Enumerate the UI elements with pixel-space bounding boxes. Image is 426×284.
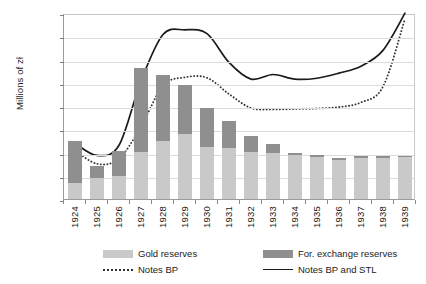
x-axis-tick-label: 1928 — [157, 206, 168, 228]
x-axis-tick-label: 1936 — [333, 206, 344, 228]
x-axis-tick-label: 1926 — [113, 206, 124, 228]
bar-segment-gold-reserves — [178, 134, 192, 199]
bar-segment-for-exchange-reserves — [68, 141, 82, 183]
x-axis-tick-label: 1927 — [135, 206, 146, 228]
x-axis-tick — [327, 200, 328, 204]
chart-legend: Gold reserves For. exchange reserves Not… — [63, 246, 415, 280]
bar-column — [112, 151, 126, 199]
bar-column — [376, 156, 390, 199]
y-axis-tick — [60, 38, 64, 39]
x-axis-tick — [239, 200, 240, 204]
bar-segment-for-exchange-reserves — [200, 108, 214, 147]
fx-swatch — [263, 250, 293, 258]
legend-label: Notes BP and STL — [298, 264, 377, 275]
x-axis-tick-label: 1925 — [91, 206, 102, 228]
gridline — [64, 62, 414, 63]
dotted-line-swatch — [103, 269, 133, 271]
y-axis-title: Millions of zł — [14, 29, 25, 139]
x-axis-tick — [371, 200, 372, 204]
x-axis-tick — [283, 200, 284, 204]
legend-item-notes-bp: Notes BP — [103, 264, 178, 275]
y-axis-tick — [60, 85, 64, 86]
x-axis-tick-label: 1939 — [399, 206, 410, 228]
x-axis-tick-label: 1934 — [289, 206, 300, 228]
bar-segment-for-exchange-reserves — [266, 144, 280, 153]
legend-item-for-exchange-reserves: For. exchange reserves — [263, 248, 397, 259]
bar-segment-for-exchange-reserves — [112, 151, 126, 177]
solid-line-swatch — [263, 269, 293, 270]
bar-segment-gold-reserves — [156, 141, 170, 199]
bar-segment-for-exchange-reserves — [222, 121, 236, 148]
legend-item-notes-bp-and-stl: Notes BP and STL — [263, 264, 377, 275]
bar-segment-gold-reserves — [332, 160, 346, 199]
bar-segment-gold-reserves — [244, 152, 258, 199]
y-axis-tick — [60, 178, 64, 179]
bar-segment-for-exchange-reserves — [156, 75, 170, 141]
bar-segment-gold-reserves — [68, 183, 82, 199]
bar-segment-gold-reserves — [398, 157, 412, 199]
bar-segment-gold-reserves — [222, 148, 236, 199]
bar-segment-gold-reserves — [200, 147, 214, 199]
x-axis-tick — [305, 200, 306, 204]
x-axis-tick — [217, 200, 218, 204]
gridline — [64, 85, 414, 86]
x-axis-tick — [63, 200, 64, 204]
bar-column — [354, 156, 368, 199]
x-axis-tick — [349, 200, 350, 204]
bar-column — [332, 158, 346, 199]
bar-column — [156, 75, 170, 199]
y-axis-tick — [60, 15, 64, 16]
bar-column — [222, 121, 236, 199]
x-axis-tick-label: 1935 — [311, 206, 322, 228]
bar-column — [178, 85, 192, 199]
x-axis-tick — [107, 200, 108, 204]
bar-column — [68, 141, 82, 199]
bar-column — [288, 153, 302, 200]
bar-column — [244, 136, 258, 199]
x-axis-tick — [85, 200, 86, 204]
x-axis-tick — [173, 200, 174, 204]
x-axis-tick-label: 1930 — [201, 206, 212, 228]
gridline — [64, 38, 414, 39]
bar-segment-gold-reserves — [288, 155, 302, 199]
bar-segment-for-exchange-reserves — [244, 136, 258, 152]
x-axis-tick-label: 1933 — [267, 206, 278, 228]
gridline — [64, 108, 414, 109]
bar-column — [200, 108, 214, 199]
x-axis-tick — [195, 200, 196, 204]
x-axis-tick-label: 1932 — [245, 206, 256, 228]
x-axis-tick-label: 1937 — [355, 206, 366, 228]
line-series-notes-bp — [75, 19, 405, 165]
plot-area — [63, 14, 415, 200]
y-axis-tick — [60, 108, 64, 109]
x-axis-tick — [393, 200, 394, 204]
bar-segment-for-exchange-reserves — [90, 166, 104, 178]
x-axis-tick-label: 1929 — [179, 206, 190, 228]
y-axis-tick — [60, 155, 64, 156]
bar-column — [90, 166, 104, 199]
y-axis-tick — [60, 131, 64, 132]
x-axis-tick — [415, 200, 416, 204]
bar-column — [398, 156, 412, 199]
legend-label: Gold reserves — [138, 248, 197, 259]
legend-label: For. exchange reserves — [298, 248, 397, 259]
x-axis-tick-label: 1924 — [69, 206, 80, 228]
x-axis-tick — [129, 200, 130, 204]
bar-segment-gold-reserves — [376, 158, 390, 199]
x-axis-tick-label: 1931 — [223, 206, 234, 228]
chart-container: Millions of zł 02505007501,0001,2501,500… — [0, 0, 426, 284]
x-axis-tick — [151, 200, 152, 204]
gridline — [64, 131, 414, 132]
bar-segment-for-exchange-reserves — [178, 85, 192, 134]
bar-segment-gold-reserves — [266, 153, 280, 199]
bar-segment-gold-reserves — [354, 158, 368, 199]
bar-column — [266, 144, 280, 199]
legend-label: Notes BP — [138, 264, 178, 275]
bar-segment-gold-reserves — [112, 176, 126, 199]
x-axis-tick-label: 1938 — [377, 206, 388, 228]
bar-segment-gold-reserves — [310, 157, 324, 199]
bar-column — [134, 68, 148, 199]
bar-column — [310, 155, 324, 199]
legend-item-gold-reserves: Gold reserves — [103, 248, 197, 259]
x-axis-tick — [261, 200, 262, 204]
